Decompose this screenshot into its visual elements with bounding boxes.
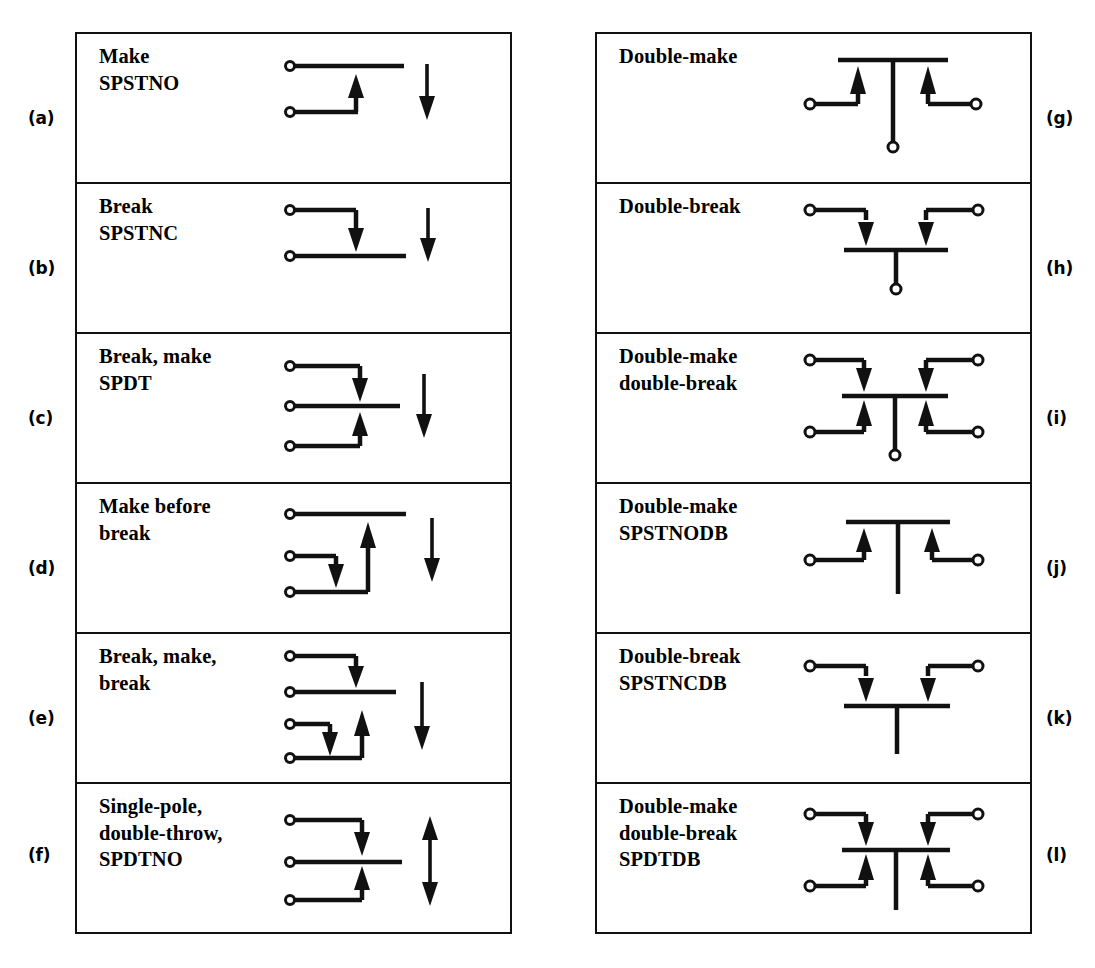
cell-l-line-1: Double-make <box>619 795 737 817</box>
cell-e-line-1: Break, make, <box>99 645 217 667</box>
cell-e: Break, make, break <box>77 634 510 784</box>
cell-a-line-1: Make <box>99 45 150 67</box>
symbol-spdt-break-make <box>272 334 502 482</box>
cell-j: Double-make SPSTNODB <box>597 484 1030 634</box>
cell-d-label: Make before break <box>99 493 211 546</box>
cell-i-label: Double-make double-break <box>619 343 737 396</box>
index-label-a: (a) <box>28 108 54 128</box>
left-column-table: Make SPSTNO <box>75 32 512 934</box>
switch-contact-forms-figure: Make SPSTNO <box>0 0 1095 968</box>
symbol-double-make-double-break <box>792 334 1022 482</box>
index-label-e: (e) <box>28 708 54 728</box>
symbol-spst-nc <box>272 184 502 332</box>
cell-b-line-2: SPSTNC <box>99 222 178 244</box>
cell-f-label: Single-pole, double-throw, SPDTNO <box>99 793 222 873</box>
symbol-make-before-break <box>272 484 502 632</box>
cell-e-label: Break, make, break <box>99 643 217 696</box>
symbol-spdtdb <box>792 784 1022 931</box>
index-label-h: (h) <box>1046 258 1073 278</box>
cell-b-line-1: Break <box>99 195 153 217</box>
cell-d-line-2: break <box>99 522 150 544</box>
cell-e-line-2: break <box>99 672 150 694</box>
cell-k-line-1: Double-break <box>619 645 741 667</box>
index-label-k: (k) <box>1046 708 1072 728</box>
right-column-table: Double-make <box>595 32 1032 934</box>
cell-f-line-2: double-throw, <box>99 822 222 844</box>
cell-a: Make SPSTNO <box>77 34 510 184</box>
cell-a-line-2: SPSTNO <box>99 72 179 94</box>
cell-f-line-1: Single-pole, <box>99 795 202 817</box>
cell-i: Double-make double-break <box>597 334 1030 484</box>
cell-c-label: Break, make SPDT <box>99 343 211 396</box>
cell-b-label: Break SPSTNC <box>99 193 178 246</box>
cell-i-line-1: Double-make <box>619 345 737 367</box>
cell-d-line-1: Make before <box>99 495 211 517</box>
index-label-g: (g) <box>1046 108 1073 128</box>
cell-l-label: Double-make double-break SPDTDB <box>619 793 737 873</box>
cell-h-line-1: Double-break <box>619 195 741 217</box>
cell-f: Single-pole, double-throw, SPDTNO <box>77 784 510 931</box>
symbol-spstnodb <box>792 484 1022 632</box>
symbol-double-break <box>792 184 1022 332</box>
index-label-i: (i) <box>1046 408 1067 428</box>
cell-c: Break, make SPDT <box>77 334 510 484</box>
cell-h-label: Double-break <box>619 193 741 220</box>
cell-b: Break SPSTNC <box>77 184 510 334</box>
cell-d: Make before break <box>77 484 510 634</box>
cell-j-line-1: Double-make <box>619 495 737 517</box>
cell-f-line-3: SPDTNO <box>99 848 183 870</box>
index-label-l: (l) <box>1046 845 1067 865</box>
cell-k: Double-break SPSTNCDB <box>597 634 1030 784</box>
index-label-d: (d) <box>28 558 55 578</box>
cell-a-label: Make SPSTNO <box>99 43 179 96</box>
cell-c-line-1: Break, make <box>99 345 211 367</box>
index-label-b: (b) <box>28 258 55 278</box>
cell-c-line-2: SPDT <box>99 372 152 394</box>
index-label-j: (j) <box>1046 558 1067 578</box>
cell-l: Double-make double-break SPDTDB <box>597 784 1030 931</box>
cell-h: Double-break <box>597 184 1030 334</box>
symbol-spst-no <box>272 34 502 182</box>
cell-k-label: Double-break SPSTNCDB <box>619 643 741 696</box>
cell-k-line-2: SPSTNCDB <box>619 672 727 694</box>
cell-g: Double-make <box>597 34 1030 184</box>
symbol-double-make <box>792 34 1022 182</box>
cell-j-label: Double-make SPSTNODB <box>619 493 737 546</box>
cell-l-line-3: SPDTDB <box>619 848 700 870</box>
cell-l-line-2: double-break <box>619 822 737 844</box>
index-label-c: (c) <box>28 408 53 428</box>
symbol-break-make-break <box>272 634 502 782</box>
cell-g-label: Double-make <box>619 43 737 70</box>
symbol-spstncdb <box>792 634 1022 782</box>
cell-g-line-1: Double-make <box>619 45 737 67</box>
cell-j-line-2: SPSTNODB <box>619 522 728 544</box>
symbol-spdtno <box>272 784 502 931</box>
index-label-f: (f) <box>28 845 50 865</box>
cell-i-line-2: double-break <box>619 372 737 394</box>
